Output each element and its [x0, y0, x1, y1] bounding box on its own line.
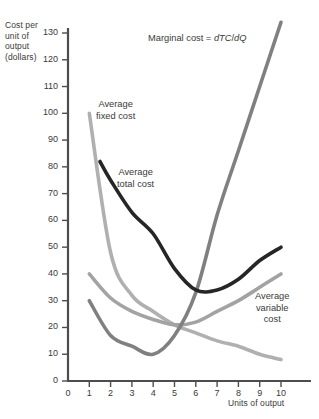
curve-average-total-cost — [100, 161, 281, 292]
x-tick-label: 8 — [230, 388, 246, 398]
x-tick-label: 4 — [145, 388, 161, 398]
y-tick-label: 0 — [34, 375, 58, 385]
y-tick-label: 40 — [34, 268, 58, 278]
y-tick-label: 30 — [34, 295, 58, 305]
cost-curves-chart: Cost per unit of output (dollars) Units … — [0, 0, 319, 419]
x-tick-label: 5 — [167, 388, 183, 398]
y-tick-label: 100 — [34, 107, 58, 117]
y-tick-label: 50 — [34, 241, 58, 251]
y-tick-label: 20 — [34, 321, 58, 331]
y-tick-label: 120 — [34, 54, 58, 64]
x-tick-label: 6 — [188, 388, 204, 398]
y-tick-label: 90 — [34, 134, 58, 144]
y-tick-label: 70 — [34, 188, 58, 198]
y-tick-label: 110 — [34, 81, 58, 91]
y-tick-label: 10 — [34, 348, 58, 358]
x-tick-label: 3 — [124, 388, 140, 398]
y-tick-label: 60 — [34, 214, 58, 224]
x-tick-label: 10 — [273, 388, 289, 398]
y-tick-label: 130 — [34, 27, 58, 37]
x-tick-label: 2 — [103, 388, 119, 398]
x-tick-label: 0 — [60, 388, 76, 398]
y-tick-label: 80 — [34, 161, 58, 171]
data-curves — [89, 22, 281, 359]
x-tick-label: 1 — [81, 388, 97, 398]
x-tick-label: 9 — [252, 388, 268, 398]
x-tick-label: 7 — [209, 388, 225, 398]
